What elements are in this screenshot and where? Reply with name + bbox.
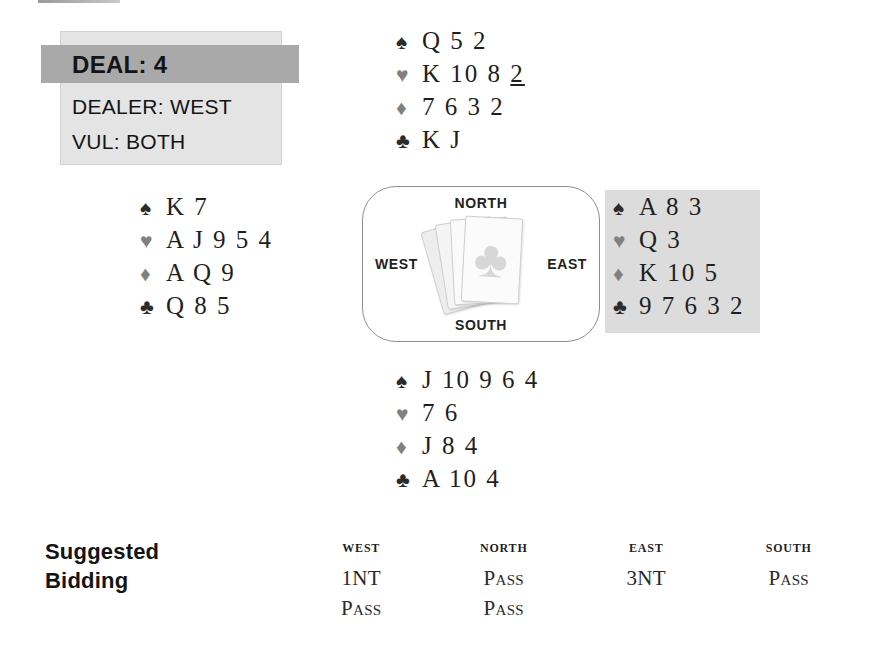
spade-icon: ♠ (140, 198, 166, 219)
heart-icon: ♥ (613, 231, 639, 252)
hand-east-diamonds-row: ♦ K 10 5 (613, 259, 745, 292)
bid-north-2: Pass (433, 594, 576, 624)
hand-east-hearts: Q 3 (639, 226, 682, 254)
bid-east-1: 3NT (575, 564, 718, 594)
bidding-col-west: WEST (290, 536, 433, 564)
heart-icon: ♥ (396, 65, 422, 86)
card-face-ornament-icon: ♣ (467, 224, 515, 296)
hand-north-spades-row: ♠ Q 5 2 (396, 27, 525, 60)
hand-south-diamonds: J 8 4 (422, 432, 479, 460)
hand-south-clubs: A 10 4 (422, 465, 501, 493)
bidding-round-row: 1NT Pass 3NT Pass (290, 564, 860, 594)
hand-west-spades: K 7 (166, 193, 209, 221)
hand-south-hearts: 7 6 (422, 399, 459, 427)
hand-west-hearts: A J 9 5 4 (166, 226, 273, 254)
hand-north-hearts-row: ♥ K 10 8 2 (396, 60, 525, 93)
hand-east-hearts-row: ♥ Q 3 (613, 226, 745, 259)
club-icon: ♣ (396, 470, 422, 491)
bidding-table: WEST NORTH EAST SOUTH 1NT Pass 3NT Pass … (290, 536, 860, 624)
hand-south-spades-row: ♠ J 10 9 6 4 (396, 366, 539, 399)
hand-east-clubs-row: ♣ 9 7 6 3 2 (613, 292, 745, 325)
top-divider-rule (38, 0, 120, 3)
hand-south-hearts-row: ♥ 7 6 (396, 399, 539, 432)
club-icon: ♣ (140, 297, 166, 318)
heart-icon: ♥ (140, 231, 166, 252)
hand-west-clubs-row: ♣ Q 8 5 (140, 292, 273, 325)
hand-east-spades-row: ♠ A 8 3 (613, 193, 745, 226)
compass-label-south: SOUTH (455, 317, 507, 333)
club-icon: ♣ (613, 297, 639, 318)
hand-south-clubs-row: ♣ A 10 4 (396, 465, 539, 498)
hand-east-clubs: 9 7 6 3 2 (639, 292, 745, 320)
vulnerability-label: VUL: BOTH (72, 130, 186, 154)
hand-north: ♠ Q 5 2 ♥ K 10 8 2 ♦ 7 6 3 2 ♣ K J (396, 27, 525, 159)
bidding-header-row: WEST NORTH EAST SOUTH (290, 536, 860, 564)
bidding-title-line2: Bidding (45, 566, 159, 595)
bidding-round-row: Pass Pass (290, 594, 860, 624)
hand-north-spades: Q 5 2 (422, 27, 488, 55)
playing-cards-graphic: ♣ (421, 209, 541, 319)
hand-east-spades: A 8 3 (639, 193, 703, 221)
bidding-section-title: Suggested Bidding (45, 537, 159, 595)
hand-north-clubs: K J (422, 126, 462, 154)
hand-east-diamonds: K 10 5 (639, 259, 719, 287)
bid-west-2: Pass (290, 594, 433, 624)
bid-west-1: 1NT (290, 564, 433, 594)
hand-east: ♠ A 8 3 ♥ Q 3 ♦ K 10 5 ♣ 9 7 6 3 2 (613, 193, 745, 325)
heart-icon: ♥ (396, 404, 422, 425)
compass-label-east: EAST (547, 256, 587, 272)
diamond-icon: ♦ (396, 98, 422, 119)
deal-number-label: DEAL: 4 (72, 51, 167, 79)
hand-west-clubs: Q 8 5 (166, 292, 232, 320)
hand-north-hearts-plain: K 10 8 (422, 60, 510, 87)
compass-box: NORTH WEST EAST SOUTH ♣ (362, 186, 600, 342)
hand-north-diamonds: 7 6 3 2 (422, 93, 505, 121)
hand-west-diamonds: A Q 9 (166, 259, 236, 287)
hand-north-diamonds-row: ♦ 7 6 3 2 (396, 93, 525, 126)
diamond-icon: ♦ (396, 437, 422, 458)
hand-west: ♠ K 7 ♥ A J 9 5 4 ♦ A Q 9 ♣ Q 8 5 (140, 193, 273, 325)
dealer-label: DEALER: WEST (72, 95, 232, 119)
bid-south-1: Pass (718, 564, 861, 594)
hand-west-spades-row: ♠ K 7 (140, 193, 273, 226)
hand-south-diamonds-row: ♦ J 8 4 (396, 432, 539, 465)
hand-north-hearts-lead-card: 2 (510, 60, 525, 87)
bid-south-2 (718, 594, 861, 624)
hand-south: ♠ J 10 9 6 4 ♥ 7 6 ♦ J 8 4 ♣ A 10 4 (396, 366, 539, 498)
club-icon: ♣ (396, 131, 422, 152)
bid-north-1: Pass (433, 564, 576, 594)
hand-west-diamonds-row: ♦ A Q 9 (140, 259, 273, 292)
bid-east-2 (575, 594, 718, 624)
diamond-icon: ♦ (613, 264, 639, 285)
diamond-icon: ♦ (140, 264, 166, 285)
bidding-col-east: EAST (575, 536, 718, 564)
hand-north-clubs-row: ♣ K J (396, 126, 525, 159)
bidding-title-line1: Suggested (45, 537, 159, 566)
spade-icon: ♠ (396, 32, 422, 53)
bidding-col-north: NORTH (433, 536, 576, 564)
spade-icon: ♠ (396, 371, 422, 392)
bidding-col-south: SOUTH (718, 536, 861, 564)
spade-icon: ♠ (613, 198, 639, 219)
compass-label-west: WEST (375, 256, 418, 272)
hand-south-spades: J 10 9 6 4 (422, 366, 539, 394)
hand-north-hearts: K 10 8 2 (422, 60, 525, 88)
hand-west-hearts-row: ♥ A J 9 5 4 (140, 226, 273, 259)
